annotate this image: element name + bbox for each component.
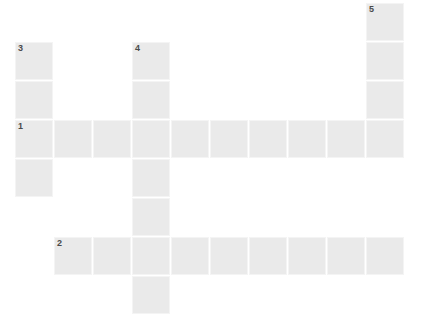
crossword-cell[interactable]: [132, 159, 170, 197]
crossword-cell[interactable]: [132, 120, 170, 158]
crossword-cell[interactable]: [93, 237, 131, 275]
crossword-cell[interactable]: [366, 120, 404, 158]
crossword-cell[interactable]: [171, 237, 209, 275]
crossword-cell-number: 2: [57, 238, 62, 249]
crossword-cell-number: 4: [135, 43, 140, 54]
crossword-cell-number: 5: [369, 4, 374, 15]
crossword-grid: 53142: [0, 0, 431, 326]
crossword-cell[interactable]: [132, 198, 170, 236]
crossword-cell[interactable]: [132, 81, 170, 119]
crossword-cell[interactable]: [210, 120, 248, 158]
crossword-cell[interactable]: [93, 120, 131, 158]
crossword-cell[interactable]: [249, 120, 287, 158]
crossword-cell[interactable]: [366, 81, 404, 119]
crossword-cell[interactable]: [15, 81, 53, 119]
crossword-cell[interactable]: [210, 237, 248, 275]
crossword-cell[interactable]: [366, 42, 404, 80]
crossword-cell[interactable]: [288, 237, 326, 275]
crossword-cell[interactable]: 2: [54, 237, 92, 275]
crossword-cell[interactable]: [249, 237, 287, 275]
crossword-cell[interactable]: [171, 120, 209, 158]
crossword-cell[interactable]: [132, 276, 170, 314]
crossword-cell-number: 3: [18, 43, 23, 54]
crossword-cell[interactable]: [288, 120, 326, 158]
crossword-cell[interactable]: 3: [15, 42, 53, 80]
crossword-cell[interactable]: [132, 237, 170, 275]
crossword-cell[interactable]: [15, 159, 53, 197]
crossword-cell[interactable]: [54, 120, 92, 158]
crossword-cell[interactable]: [327, 237, 365, 275]
crossword-cell[interactable]: 1: [15, 120, 53, 158]
crossword-cell[interactable]: [366, 237, 404, 275]
crossword-cell[interactable]: 4: [132, 42, 170, 80]
crossword-cell[interactable]: [327, 120, 365, 158]
crossword-cell-number: 1: [18, 121, 23, 132]
crossword-cell[interactable]: 5: [366, 3, 404, 41]
